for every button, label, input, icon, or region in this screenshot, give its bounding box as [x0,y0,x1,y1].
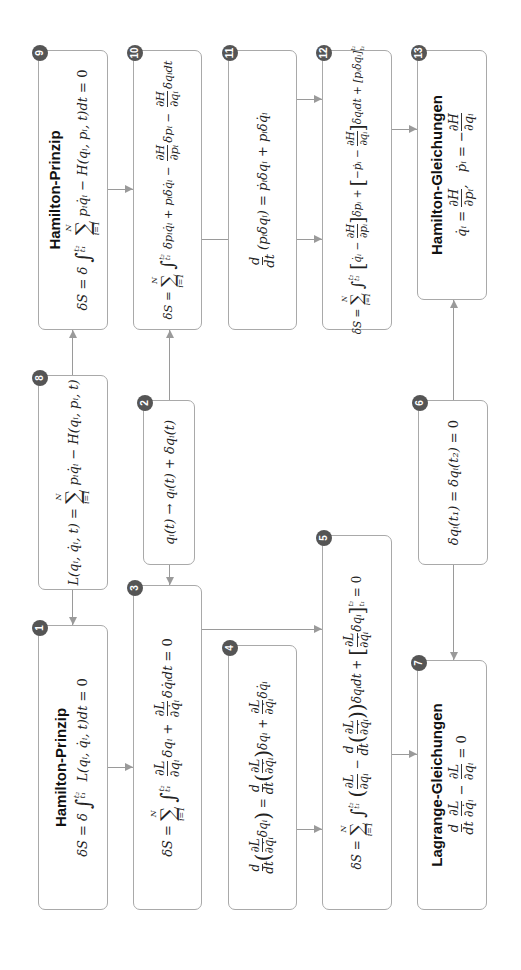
node-equation: δS = N∑i=1 ∫t₁t₂ ∂L∂qᵢδqᵢ + ∂L∂q̇ᵢδq̇ᵢdt… [150,638,186,857]
step-badge: 10 [127,45,143,61]
node-title: Hamilton-Prinzip [46,130,63,249]
node-5-integrated-by-parts-lagrange: δS = N∑i=1 ∫t₁t₂ (∂L∂qᵢ − ddt(∂L∂q̇ᵢ))δq… [322,535,392,910]
edge-6-13 [453,300,454,400]
arrowhead [166,330,174,338]
arrowhead [69,617,77,625]
node-equation: ddt ∂L∂q̇ᵢ − ∂L∂qᵢ = 0 [447,735,477,835]
step-badge: 13 [411,45,427,61]
node-8-lagrangian-legendre: L(qᵢ, q̇ᵢ, t) = N∑i=1 pᵢq̇ᵢ − H(qᵢ, pᵢ, … [38,375,108,590]
node-equation: L(qᵢ, q̇ᵢ, t) = N∑i=1 pᵢq̇ᵢ − H(qᵢ, pᵢ, … [55,379,91,585]
step-badge: 6 [412,395,428,411]
arrowhead [69,330,77,338]
arrowhead [314,236,322,244]
node-equation: qᵢ(t) → qᵢ(t) + δqᵢ(t) [162,420,177,545]
edge-2-10 [169,330,170,400]
arrowhead [409,751,417,759]
step-badge: 5 [316,530,332,546]
arrowhead [125,186,133,194]
derivation-flowchart: Hamilton-Prinzip δS = δ ∫t₁t₂ L(qᵢ, q̇ᵢ,… [0,0,521,970]
node-title: Hamilton-Prinzip [52,708,69,827]
arrowhead [314,96,322,104]
node-10-variation-phase-space: δS = N∑i=1 ∫t₁t₂ δpᵢq̇ᵢ + pᵢδq̇ᵢ − ∂H∂pᵢ… [133,50,202,330]
node-equation: δS = δ ∫t₁t₂ L(qᵢ, q̇ᵢ, t)dt = 0 [71,678,95,857]
node-12-integrated-by-parts-hamilton: δS = N∑i=1 ∫t₁t₂ [q̇ᵢ − ∂H∂pᵢ]δpᵢ + [−ṗᵢ… [322,50,392,330]
node-13-hamilton-equations: Hamilton-Gleichungen q̇ᵢ = ∂H∂pᵢ, ṗᵢ = −… [417,50,487,300]
node-equation: δS = N∑i=1 ∫t₁t₂ [q̇ᵢ − ∂H∂pᵢ]δpᵢ + [−ṗᵢ… [342,46,372,334]
node-1-hamilton-principle: Hamilton-Prinzip δS = δ ∫t₁t₂ L(qᵢ, q̇ᵢ,… [38,625,108,910]
step-badge: 3 [127,580,143,596]
step-badge: 7 [411,655,427,671]
node-equation: δS = N∑i=1 ∫t₁t₂ δpᵢq̇ᵢ + pᵢδq̇ᵢ − ∂H∂pᵢ… [151,61,185,320]
node-title: Lagrange-Gleichungen [428,703,445,866]
node-9-hamilton-principle-phase-space: Hamilton-Prinzip δS = δ ∫t₁t₂ N∑i=1 pᵢq̇… [38,50,108,330]
arrowhead [314,826,322,834]
edge-6-rail [453,565,454,660]
node-equation: q̇ᵢ = ∂H∂pᵢ, ṗᵢ = −∂H∂qᵢ [447,113,477,237]
node-equation: ddt (pᵢδqᵢ) = ṗᵢδqᵢ + pᵢδq̇ᵢ [248,112,278,267]
arrowhead [125,764,133,772]
arrowhead [450,652,458,660]
arrowhead [314,626,322,634]
step-badge: 9 [32,45,48,61]
node-7-lagrange-equations: Lagrange-Gleichungen ddt ∂L∂q̇ᵢ − ∂L∂qᵢ … [417,660,487,910]
node-2-variation-path: qᵢ(t) → qᵢ(t) + δqᵢ(t) 2 [143,400,195,565]
arrowhead [450,300,458,308]
step-badge: 2 [137,395,153,411]
arrowhead [409,126,417,134]
step-badge: 12 [316,45,332,61]
step-badge: 8 [32,370,48,386]
node-equation: δS = δ ∫t₁t₂ N∑i=1 pᵢq̇ᵢ − H(qᵢ, pᵢ, t)d… [65,70,101,311]
node-title: Hamilton-Gleichungen [428,95,445,255]
arrowhead [166,577,174,585]
step-badge: 11 [222,45,238,61]
node-equation: δqᵢ(t₁) = δqᵢ(t₂) = 0 [446,420,461,545]
edge-3-5-v [202,629,322,630]
node-equation: δS = N∑i=1 ∫t₁t₂ (∂L∂qᵢ − ddt(∂L∂q̇ᵢ))δq… [340,576,374,870]
node-6-boundary-conditions: δqᵢ(t₁) = δqᵢ(t₂) = 0 6 [418,400,488,565]
step-badge: 1 [32,620,48,636]
node-3-variation-expanded: δS = N∑i=1 ∫t₁t₂ ∂L∂qᵢδqᵢ + ∂L∂q̇ᵢδq̇ᵢdt… [133,585,202,910]
node-4-product-rule-lagrange: ddt(∂L∂q̇ᵢδqᵢ) = ddt(∂L∂q̇ᵢ)δqᵢ + ∂L∂q̇ᵢ… [228,645,297,910]
step-badge: 4 [222,640,238,656]
node-equation: ddt(∂L∂q̇ᵢδqᵢ) = ddt(∂L∂q̇ᵢ)δqᵢ + ∂L∂q̇ᵢ… [249,681,276,874]
node-11-product-rule-hamilton: ddt (pᵢδqᵢ) = ṗᵢδqᵢ + pᵢδq̇ᵢ 11 [228,50,297,330]
